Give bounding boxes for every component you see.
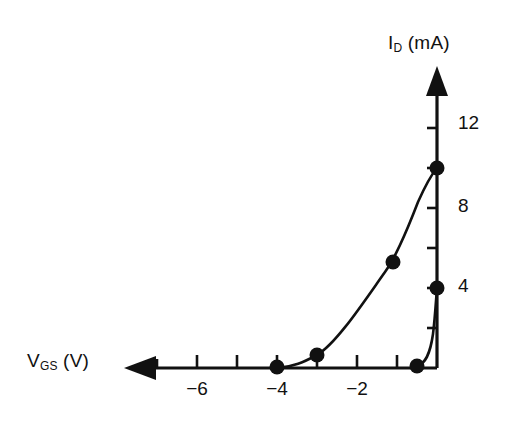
jfet-transfer-characteristic-figure: ID (mA) VGS (V) 12 8 4 −6 −4 −2 xyxy=(0,0,505,425)
x-axis-title: VGS (V) xyxy=(27,350,89,372)
left-arrow-icon xyxy=(124,356,156,380)
x-axis-title-unit: (V) xyxy=(58,350,89,371)
data-point-marker xyxy=(310,348,325,363)
x-axis-title-subscript: GS xyxy=(40,359,58,373)
data-point-markers xyxy=(270,161,445,375)
data-point-marker xyxy=(270,360,285,375)
up-arrow-icon xyxy=(426,66,448,96)
data-point-marker xyxy=(430,281,445,296)
y-tick-label-12: 12 xyxy=(458,112,492,134)
y-tick-label-8: 8 xyxy=(458,195,492,217)
y-axis-title-unit: (mA) xyxy=(402,32,449,53)
data-point-marker xyxy=(386,255,401,270)
y-axis xyxy=(426,66,448,368)
x-axis-title-main: V xyxy=(27,350,40,371)
data-point-marker xyxy=(430,161,445,176)
transfer-characteristic-curve xyxy=(277,168,437,368)
data-point-marker xyxy=(410,359,425,374)
x-tick-label--6: −6 xyxy=(177,378,217,400)
y-axis-title-subscript: D xyxy=(393,41,402,55)
x-tick-label--4: −4 xyxy=(257,378,297,400)
y-axis-title: ID (mA) xyxy=(388,32,450,54)
y-tick-label-4: 4 xyxy=(458,275,492,297)
x-tick-label--2: −2 xyxy=(337,378,377,400)
